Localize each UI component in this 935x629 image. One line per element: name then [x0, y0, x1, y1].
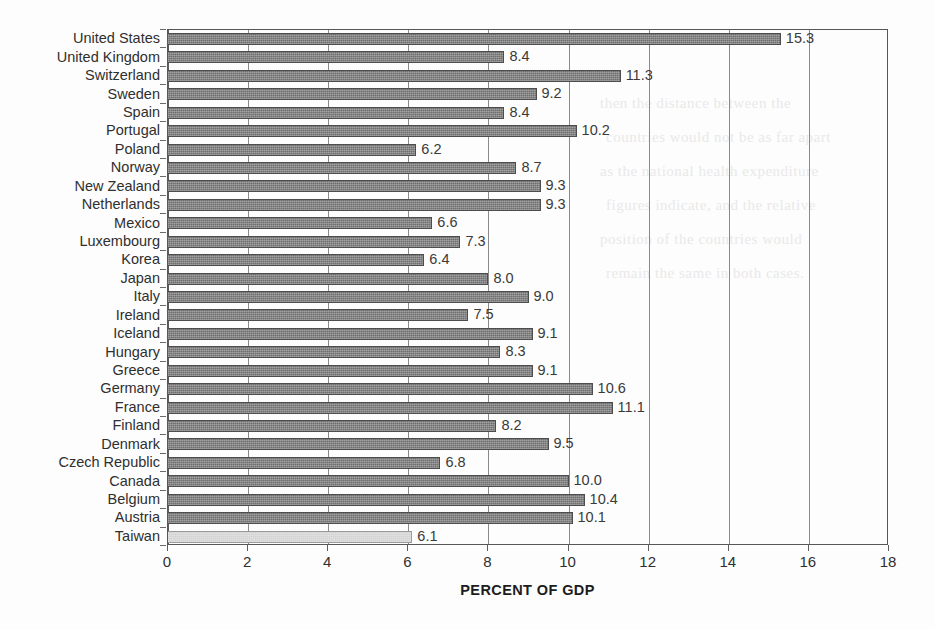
category-label: Taiwan	[115, 527, 160, 545]
bar-series: 15.38.411.39.28.410.26.28.79.39.36.67.36…	[168, 30, 887, 544]
x-tick-label: 14	[719, 553, 736, 570]
x-tick-label: 8	[483, 553, 491, 570]
bar-sweden	[168, 88, 537, 100]
bar-value-label: 6.4	[429, 250, 449, 268]
category-tick	[160, 379, 166, 380]
bar-mexico	[168, 217, 432, 229]
bar-row: 11.3	[168, 67, 887, 85]
plot-area: 15.38.411.39.28.410.26.28.79.39.36.67.36…	[167, 29, 888, 545]
bar-belgium	[168, 494, 585, 506]
bar-row: 7.3	[168, 233, 887, 251]
bar-switzerland	[168, 70, 621, 82]
category-label: Switzerland	[85, 66, 160, 84]
bar-row: 10.0	[168, 472, 887, 490]
bar-value-label: 6.1	[417, 527, 437, 545]
category-tick	[160, 269, 166, 270]
x-axis: 024681012141618	[167, 545, 888, 585]
bar-row: 9.3	[168, 177, 887, 195]
category-label: Sweden	[108, 85, 160, 103]
bar-value-label: 15.3	[786, 29, 814, 47]
bar-row: 8.2	[168, 417, 887, 435]
bar-value-label: 9.5	[554, 434, 574, 452]
x-tick	[888, 545, 889, 551]
category-tick	[160, 84, 166, 85]
bar-finland	[168, 420, 496, 432]
x-tick-label: 2	[243, 553, 251, 570]
x-tick-label: 0	[163, 553, 171, 570]
chart-page: then the distance between thecountries w…	[0, 0, 935, 629]
x-tick	[568, 545, 569, 551]
category-tick	[160, 158, 166, 159]
bar-value-label: 10.6	[598, 379, 626, 397]
bar-denmark	[168, 438, 549, 450]
bar-row: 10.6	[168, 380, 887, 398]
category-label: Luxembourg	[79, 232, 160, 250]
bar-norway	[168, 162, 516, 174]
category-label: Poland	[115, 140, 160, 158]
category-label: Netherlands	[82, 195, 160, 213]
category-label: Spain	[123, 103, 160, 121]
category-tick	[160, 29, 166, 30]
bar-value-label: 8.7	[521, 158, 541, 176]
x-tick	[247, 545, 248, 551]
bar-austria	[168, 512, 573, 524]
bar-value-label: 6.6	[437, 213, 457, 231]
bar-row: 6.1	[168, 528, 887, 546]
bar-value-label: 11.1	[618, 398, 645, 416]
category-tick	[160, 305, 166, 306]
bar-value-label: 8.0	[493, 269, 513, 287]
x-tick-label: 12	[639, 553, 656, 570]
bar-row: 8.7	[168, 159, 887, 177]
category-tick	[160, 324, 166, 325]
x-tick	[728, 545, 729, 551]
category-label: Ireland	[116, 306, 160, 324]
x-tick	[167, 545, 168, 551]
x-tick-label: 18	[880, 553, 897, 570]
bar-value-label: 9.3	[546, 176, 566, 194]
bar-greece	[168, 365, 533, 377]
bar-germany	[168, 383, 593, 395]
category-label: Finland	[112, 416, 160, 434]
bar-italy	[168, 291, 529, 303]
bar-united-states	[168, 33, 781, 45]
category-label: Mexico	[114, 214, 160, 232]
bar-ireland	[168, 309, 468, 321]
bar-row: 9.3	[168, 196, 887, 214]
bar-value-label: 8.4	[509, 47, 529, 65]
bar-row: 11.1	[168, 399, 887, 417]
bar-united-kingdom	[168, 51, 504, 63]
x-tick	[327, 545, 328, 551]
bar-row: 9.1	[168, 325, 887, 343]
bar-hungary	[168, 346, 500, 358]
bar-value-label: 7.3	[465, 232, 485, 250]
bar-value-label: 10.4	[590, 490, 618, 508]
category-tick	[160, 342, 166, 343]
category-tick	[160, 398, 166, 399]
category-label: Portugal	[106, 121, 160, 139]
bar-row: 6.4	[168, 251, 887, 269]
category-tick	[160, 508, 166, 509]
x-tick-label: 6	[403, 553, 411, 570]
category-label: New Zealand	[75, 177, 160, 195]
category-tick	[160, 471, 166, 472]
category-label: Iceland	[113, 324, 160, 342]
category-tick	[160, 232, 166, 233]
bar-value-label: 9.2	[542, 84, 562, 102]
category-tick	[160, 416, 166, 417]
category-tick	[160, 103, 166, 104]
category-tick	[160, 527, 166, 528]
category-tick	[160, 47, 166, 48]
category-tick	[160, 434, 166, 435]
category-label: Belgium	[108, 490, 160, 508]
bar-korea	[168, 254, 424, 266]
bar-row: 10.4	[168, 491, 887, 509]
bar-czech-republic	[168, 457, 440, 469]
x-tick-label: 16	[800, 553, 817, 570]
category-tick	[160, 250, 166, 251]
x-tick	[648, 545, 649, 551]
category-tick	[160, 121, 166, 122]
category-label: Denmark	[101, 435, 160, 453]
bar-value-label: 8.4	[509, 103, 529, 121]
bar-row: 9.5	[168, 435, 887, 453]
bar-row: 8.4	[168, 48, 887, 66]
